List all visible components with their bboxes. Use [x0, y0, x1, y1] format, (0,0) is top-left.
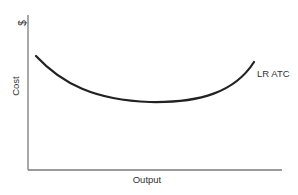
cost-chart: $ Cost Output LR ATC [0, 0, 298, 195]
lr-atc-curve [36, 56, 254, 102]
y-unit-label: $ [17, 20, 28, 26]
curve-label: LR ATC [257, 68, 290, 79]
y-axis-label: Cost [10, 76, 21, 96]
x-axis-label: Output [133, 174, 162, 185]
